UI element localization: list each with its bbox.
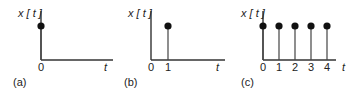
stem-plot-figure: x [ t ]t0(a)x [ t ]t01(b)x [ t ]t01234(c… — [0, 0, 359, 93]
panel-c-x-label: t — [342, 61, 346, 73]
panel-b-caption: (b) — [124, 76, 137, 88]
panel-b-y-label: x [ t ] — [127, 7, 153, 19]
panel-a-caption: (a) — [13, 76, 26, 88]
panel-c-tick-label: 1 — [276, 61, 282, 73]
panel-c-tick-label: 3 — [308, 61, 314, 73]
panel-c-sample-dot — [307, 22, 314, 29]
panel-a-y-label: x [ t ] — [17, 7, 43, 19]
panel-c-y-label: x [ t ] — [240, 7, 266, 19]
panel-a-x-label: t — [104, 61, 108, 73]
panel-c-sample-dot — [323, 22, 330, 29]
panel-b-tick-label: 1 — [165, 61, 171, 73]
panel-c-tick-label: 2 — [292, 61, 298, 73]
panel-c-tick-label: 4 — [324, 61, 330, 73]
panel-c-sample-dot — [291, 22, 298, 29]
panel-c-sample-dot — [275, 22, 282, 29]
panel-a-sample-dot — [37, 22, 44, 29]
panel-c-sample-dot — [259, 22, 266, 29]
panel-b-tick-label: 0 — [148, 61, 154, 73]
panel-b-sample-dot — [164, 22, 171, 29]
panel-a-tick-label: 0 — [38, 61, 44, 73]
panel-b-x-label: t — [216, 61, 220, 73]
panel-c-caption: (c) — [241, 76, 254, 88]
panel-c-tick-label: 0 — [260, 61, 266, 73]
